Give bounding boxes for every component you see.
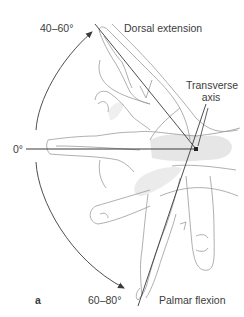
extension-arc [36,32,92,130]
flexion-axis-line [138,104,206,306]
flexion-arc [36,162,124,288]
extension-axis-line [95,24,196,149]
flexion-angle-label: 60–80° [88,294,121,306]
extension-angle-label: 40–60° [40,22,73,34]
extension-title-label: Dorsal extension [124,22,202,34]
pivot-point [194,147,198,151]
flexion-title-label: Palmar flexion [159,294,226,306]
panel-label: a [35,294,41,306]
neutral-angle-label: 0° [13,143,23,155]
wrist-motion-figure: 40–60° Dorsal extension Transverse axis … [0,0,244,317]
wrist-diagram-drawing [0,0,244,317]
transverse-axis-label-line1: Transverse [186,79,236,91]
transverse-axis-label-line2: axis [186,91,236,103]
transverse-axis-label: Transverse axis [186,79,236,103]
